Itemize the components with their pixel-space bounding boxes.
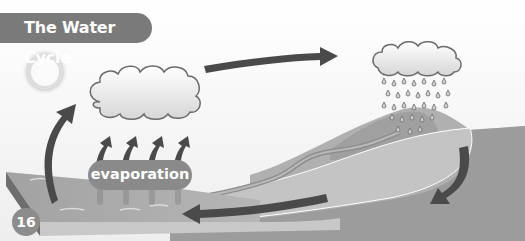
diagram-title: The Water Cycle — [0, 13, 152, 43]
evaporation-label: evaporation — [88, 160, 192, 190]
cloud-icon — [90, 66, 200, 119]
page-number-badge: 16 — [12, 208, 40, 236]
